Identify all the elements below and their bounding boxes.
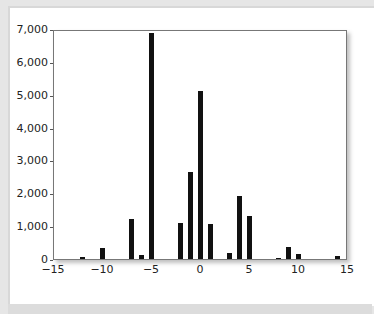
bar: 90 — [335, 256, 340, 259]
bar: 5110 — [198, 91, 203, 259]
y-tick-mark — [50, 161, 53, 162]
x-tick-label: 15 — [332, 263, 362, 276]
y-tick-label: 5,000 — [4, 89, 48, 102]
y-tick-mark — [50, 30, 53, 31]
bar: 70 — [80, 257, 85, 259]
bar: 150 — [296, 254, 301, 259]
y-tick-mark — [50, 194, 53, 195]
y-tick-label: 4,000 — [4, 122, 48, 135]
bar: 6880 — [149, 33, 154, 259]
plot-area: 7035012201306880109026505110106017019301… — [53, 30, 347, 260]
bar: 170 — [227, 253, 232, 259]
x-tick-label: 5 — [234, 263, 264, 276]
bar: 1930 — [237, 196, 242, 259]
x-tick-label: 10 — [283, 263, 313, 276]
y-tick-label: 3,000 — [4, 154, 48, 167]
bar: 1090 — [178, 223, 183, 259]
y-tick-mark — [50, 260, 53, 261]
panel-footer-band — [8, 304, 372, 314]
y-tick-label: 1,000 — [4, 220, 48, 233]
x-tick-label: −10 — [87, 263, 117, 276]
y-tick-mark — [50, 129, 53, 130]
bar: 20 — [276, 258, 281, 259]
y-tick-mark — [50, 96, 53, 97]
bar: 2650 — [188, 172, 193, 259]
bar: 350 — [100, 248, 105, 260]
bar: 1310 — [247, 216, 252, 259]
x-tick-label: 0 — [185, 263, 215, 276]
y-tick-label: 7,000 — [4, 23, 48, 36]
y-tick-mark — [50, 63, 53, 64]
bar: 370 — [286, 247, 291, 259]
y-tick-label: 2,000 — [4, 187, 48, 200]
x-tick-label: −15 — [38, 263, 68, 276]
x-tick-label: −5 — [136, 263, 166, 276]
bar: 130 — [139, 255, 144, 259]
bar: 1060 — [208, 224, 213, 259]
y-tick-mark — [50, 227, 53, 228]
y-tick-label: 6,000 — [4, 56, 48, 69]
bar: 1220 — [129, 219, 134, 259]
